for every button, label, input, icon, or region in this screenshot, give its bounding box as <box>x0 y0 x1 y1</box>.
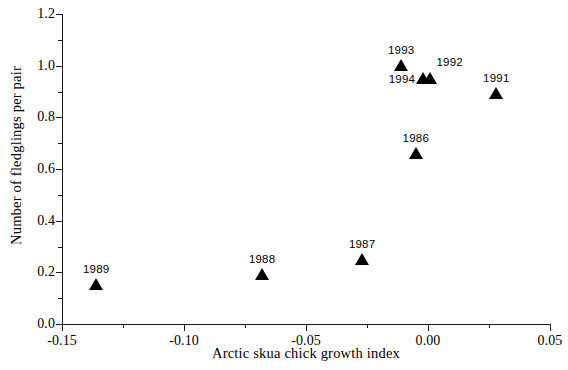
x-axis-title: Arctic skua chick growth index <box>62 345 550 362</box>
triangle-up-marker-icon <box>89 278 103 290</box>
y-tick-mark <box>56 14 63 15</box>
data-point-label: 1994 <box>389 74 415 86</box>
data-point-label: 1992 <box>436 57 462 69</box>
x-tick-mark <box>428 324 429 331</box>
plot-area: 0.00.20.40.60.81.01.2 -0.15-0.10-0.050.0… <box>62 14 550 324</box>
y-tick-mark <box>56 221 63 222</box>
x-tick-mark <box>367 324 368 328</box>
data-point-label: 1991 <box>483 73 509 85</box>
data-point-label: 1993 <box>388 45 414 57</box>
y-tick-label: 0.0 <box>37 317 55 331</box>
y-tick-mark <box>56 117 63 118</box>
y-tick-label: 0.2 <box>37 265 55 279</box>
y-tick-mark <box>56 169 63 170</box>
x-tick-mark <box>550 324 551 331</box>
data-point-label: 1989 <box>83 264 109 276</box>
y-tick-mark <box>58 40 63 41</box>
triangle-up-marker-icon <box>394 59 408 71</box>
x-tick-mark <box>306 324 307 331</box>
triangle-up-marker-icon <box>355 253 369 265</box>
x-tick-mark <box>245 324 246 328</box>
y-axis-title-text: Number of fledglings per pair <box>8 66 25 245</box>
triangle-up-marker-icon <box>489 87 503 99</box>
y-tick-mark <box>56 272 63 273</box>
data-point-label: 1986 <box>403 133 429 145</box>
y-tick-label: 0.8 <box>37 110 55 124</box>
x-tick-mark <box>489 324 490 328</box>
y-tick-mark <box>56 66 63 67</box>
y-tick-mark <box>58 92 63 93</box>
y-tick-mark <box>58 247 63 248</box>
x-tick-mark <box>184 324 185 331</box>
y-tick-label: 1.0 <box>37 59 55 73</box>
data-point-label: 1987 <box>349 239 375 251</box>
y-tick-mark <box>58 298 63 299</box>
y-tick-label: 0.4 <box>37 214 55 228</box>
y-tick-label: 1.2 <box>37 7 55 21</box>
y-tick-mark <box>58 195 63 196</box>
y-tick-label: 0.6 <box>37 162 55 176</box>
triangle-up-marker-icon <box>255 268 269 280</box>
data-point-label: 1988 <box>249 254 275 266</box>
x-tick-mark <box>123 324 124 328</box>
scatter-chart-figure: Number of fledglings per pair 0.00.20.40… <box>0 0 568 370</box>
y-axis-title: Number of fledglings per pair <box>6 0 26 310</box>
x-tick-mark <box>62 324 63 331</box>
triangle-up-marker-icon <box>423 72 437 84</box>
x-axis-title-text: Arctic skua chick growth index <box>212 345 400 361</box>
triangle-up-marker-icon <box>409 147 423 159</box>
y-tick-mark <box>58 143 63 144</box>
